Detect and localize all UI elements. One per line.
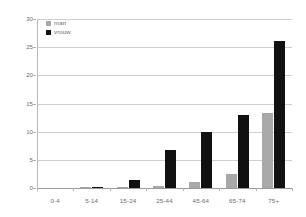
y-axis-tick-mark [33,47,36,48]
bar-vrouw [238,115,249,188]
x-axis-tick-label: 65-74 [219,191,255,213]
y-axis-tick-mark [33,19,36,20]
bar-vrouw [274,41,285,188]
bar-chart: 051015202530 0-45-1415-2425-4445-6465-74… [0,0,306,217]
y-axis-tick-mark [33,132,36,133]
x-axis-tick-label: 45-64 [183,191,219,213]
bar-group [73,19,109,188]
y-axis-tick-label: 10 [0,127,33,137]
y-axis-tick-label: 30 [0,14,33,24]
x-axis-tick-label: 5-14 [73,191,109,213]
x-axis-line [37,188,292,189]
bar-group [256,19,292,188]
bar-man [226,174,237,188]
legend-item-vrouw: vrouw [46,29,71,35]
bar-man [262,113,273,188]
bar-vrouw [201,132,212,188]
bar-man [117,187,128,188]
y-axis-tick-label: 20 [0,70,33,80]
bar-vrouw [129,180,140,188]
x-axis-tick-mark [292,188,293,191]
x-axis-tick-label: 25-44 [146,191,182,213]
bar-vrouw [165,150,176,188]
y-axis-tick-mark [33,188,36,189]
legend-swatch-man-icon [46,21,51,26]
y-axis-tick-label: 5 [0,155,33,165]
bar-group [37,19,73,188]
legend-label-vrouw: vrouw [54,29,71,35]
x-axis-tick-label: 0-4 [37,191,73,213]
bar-man [153,186,164,188]
y-axis-tick-mark [33,104,36,105]
legend-swatch-vrouw-icon [46,30,51,35]
y-axis-tick-mark [33,160,36,161]
legend-item-man: man [46,20,71,26]
y-axis-tick-mark [33,75,36,76]
bar-man [80,187,91,188]
bar-groups [37,19,292,188]
bar-man [189,182,200,188]
bar-group [183,19,219,188]
chart-legend: man vrouw [46,20,71,35]
y-axis-tick-label: 15 [0,99,33,109]
x-axis-tick-label: 75+ [256,191,292,213]
x-axis-tick-labels: 0-45-1415-2425-4445-6465-7475+ [37,191,292,213]
bar-group [219,19,255,188]
bar-group [146,19,182,188]
bar-vrouw [92,187,103,188]
y-axis-tick-label: 0 [0,183,33,193]
y-axis-tick-label: 25 [0,42,33,52]
bar-group [110,19,146,188]
y-axis-tick-labels: 051015202530 [0,19,33,188]
legend-label-man: man [54,20,66,26]
x-axis-tick-label: 15-24 [110,191,146,213]
